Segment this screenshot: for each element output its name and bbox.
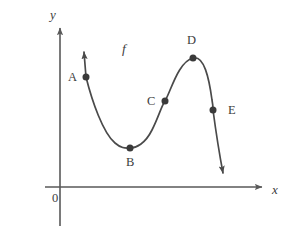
function-label-f: f — [122, 42, 126, 56]
x-axis-label: x — [272, 183, 278, 196]
function-graph-figure: y x 0 f A B C D E — [0, 0, 291, 236]
point-c-label: C — [147, 95, 155, 108]
function-curve — [86, 58, 223, 173]
point-b-dot — [127, 145, 134, 152]
y-axis-label: y — [50, 8, 56, 21]
point-d-dot — [190, 55, 197, 62]
point-c-dot — [162, 98, 169, 105]
graph-canvas — [0, 0, 291, 236]
point-a-dot — [83, 74, 90, 81]
point-e-dot — [210, 107, 217, 114]
point-a-label: A — [68, 71, 77, 84]
point-e-label: E — [228, 104, 236, 117]
curve-start-arrow — [84, 52, 86, 77]
point-b-label: B — [126, 156, 134, 169]
origin-label: 0 — [52, 192, 58, 205]
point-d-label: D — [187, 34, 196, 47]
